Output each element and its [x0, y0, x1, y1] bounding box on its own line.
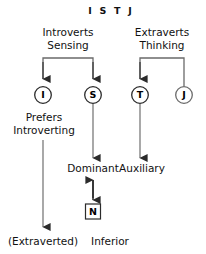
label-prefers: Prefers: [26, 112, 63, 123]
page-title: I S T J: [86, 6, 134, 16]
node-label-J: J: [182, 90, 186, 100]
bracket-right: [140, 58, 184, 86]
header-left-introverts: Introverts: [43, 27, 94, 38]
node-label-I: I: [41, 90, 45, 100]
istj-function-diagram: I S T J Introverts Sensing Extraverts Th…: [0, 0, 206, 254]
label-dominant: Dominant: [67, 163, 119, 174]
node-label-N: N: [89, 207, 97, 217]
node-label-S: S: [90, 90, 97, 100]
label-auxiliary: Auxiliary: [119, 163, 165, 174]
label-extraverted: (Extraverted): [8, 236, 78, 247]
node-label-T: T: [137, 90, 143, 100]
header-right-extraverts: Extraverts: [135, 27, 189, 38]
header-right-thinking: Thinking: [140, 40, 185, 51]
label-inferior: Inferior: [91, 236, 129, 247]
label-introverting: Introverting: [13, 125, 75, 136]
header-left-sensing: Sensing: [47, 40, 89, 51]
bracket-left: [43, 58, 93, 79]
